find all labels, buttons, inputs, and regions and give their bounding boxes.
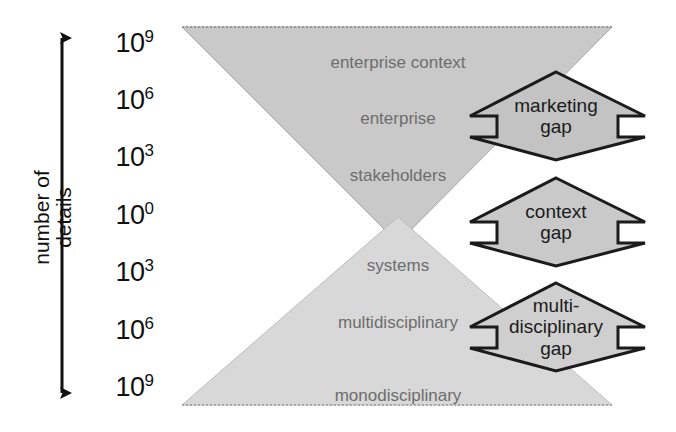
triangle-label-enterprise-context: enterprise context [330,54,465,71]
axis-tick-5: 106 [88,315,154,344]
axis-tick-3-base: 10 [115,200,144,230]
axis-tick-1-base: 10 [115,85,144,115]
axis-tick-5-base: 10 [115,315,144,345]
axis-title: number of details [31,117,76,317]
axis-tick-0: 109 [88,28,154,57]
axis-tick-2-exponent: 3 [145,141,154,160]
triangle-label-multidisciplinary: multidisciplinary [338,314,458,331]
axis-tick-0-base: 10 [115,28,144,58]
triangle-label-monodisciplinary: monodisciplinary [335,387,462,404]
axis-tick-6: 109 [88,372,154,401]
axis-tick-4-base: 10 [115,257,144,287]
triangle-label-stakeholders: stakeholders [350,167,446,184]
axis-tick-2-base: 10 [115,142,144,172]
axis-tick-3-exponent: 0 [145,199,154,218]
axis-tick-5-exponent: 6 [145,314,154,333]
axis-tick-2: 103 [88,142,154,171]
diagram-canvas: number of details 109 106 103 100 103 10… [0,0,676,432]
axis-tick-6-exponent: 9 [145,371,154,390]
axis-tick-6-base: 10 [115,372,144,402]
triangle-label-systems: systems [367,257,429,274]
axis-tick-0-exponent: 9 [145,27,154,46]
context-gap-label: context gap [525,201,586,244]
axis-tick-4-exponent: 3 [145,256,154,275]
axis-tick-4: 103 [88,257,154,286]
axis-tick-1: 106 [88,85,154,114]
triangle-label-enterprise: enterprise [360,110,436,127]
multidisciplinary-gap-label: multi- disciplinary gap [509,295,603,359]
axis-tick-1-exponent: 6 [145,84,154,103]
axis-tick-3: 100 [88,200,154,229]
marketing-gap-label: marketing gap [514,95,597,138]
